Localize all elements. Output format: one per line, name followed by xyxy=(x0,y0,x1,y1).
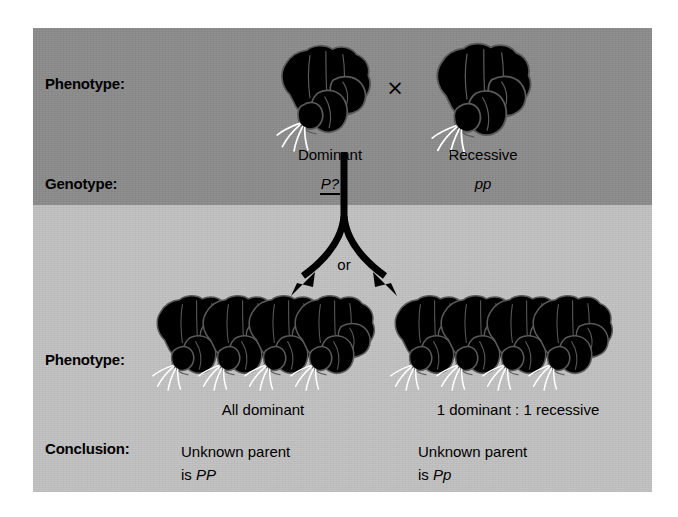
genotype-dominant-value: P? xyxy=(320,175,340,195)
caption-offspring-left: All dominant xyxy=(173,401,353,418)
conclusion-right-line1: Unknown parent xyxy=(418,440,527,463)
caption-offspring-right: 1 dominant : 1 recessive xyxy=(403,401,633,418)
caption-recessive-phenotype: Recessive xyxy=(423,146,543,163)
testcross-figure: .petal-main, .petal-wing, .petal-keel { … xyxy=(33,28,652,492)
row-label-phenotype-parents: Phenotype: xyxy=(45,75,125,92)
genotype-dominant-parent: P? xyxy=(270,175,390,192)
conclusion-left-line1: Unknown parent xyxy=(181,440,290,463)
conclusion-left: Unknown parent is PP xyxy=(181,440,290,486)
or-branch-label: or xyxy=(324,256,364,273)
row-label-conclusion: Conclusion: xyxy=(45,440,129,457)
conclusion-right-prefix: is xyxy=(418,466,433,483)
conclusion-right-line2: is Pp xyxy=(418,463,527,486)
cross-multiply-icon: × xyxy=(381,76,409,100)
conclusion-left-genotype: PP xyxy=(196,466,216,483)
conclusion-right: Unknown parent is Pp xyxy=(418,440,527,486)
conclusion-left-line2: is PP xyxy=(181,463,290,486)
conclusion-right-genotype: Pp xyxy=(433,466,451,483)
row-label-genotype: Genotype: xyxy=(45,175,117,192)
genotype-recessive-parent: pp xyxy=(423,175,543,192)
conclusion-left-prefix: is xyxy=(181,466,196,483)
text-layer: Phenotype: Genotype: Phenotype: Conclusi… xyxy=(33,28,652,492)
row-label-phenotype-offspring: Phenotype: xyxy=(45,351,125,368)
caption-dominant-phenotype: Dominant xyxy=(270,146,390,163)
